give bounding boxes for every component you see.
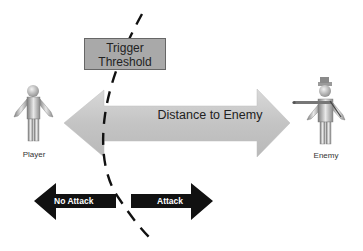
attack-label: Attack <box>157 196 183 206</box>
enemy-label: Enemy <box>306 151 346 160</box>
trigger-threshold-box: Trigger Threshold <box>84 38 166 70</box>
threshold-label-line2: Threshold <box>85 55 165 69</box>
threshold-label-line1: Trigger <box>85 41 165 55</box>
distance-label: Distance to Enemy <box>120 108 300 122</box>
enemy-figure-icon <box>292 77 345 144</box>
player-figure-icon <box>14 85 53 141</box>
player-label: Player <box>14 150 54 159</box>
distance-double-arrow <box>64 89 290 157</box>
diagram-canvas <box>0 0 363 251</box>
no-attack-label: No Attack <box>54 196 93 206</box>
rifle-icon <box>294 101 332 104</box>
